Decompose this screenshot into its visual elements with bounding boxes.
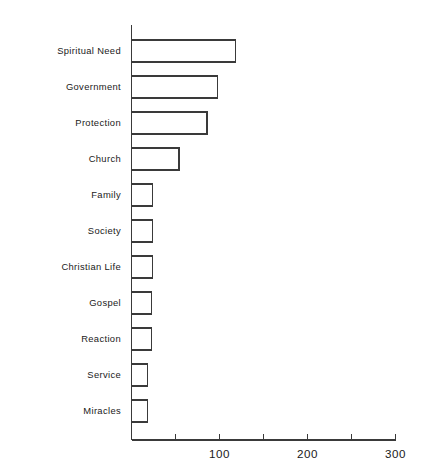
x-axis-tick-label: 200 <box>297 447 318 460</box>
bar <box>132 400 148 422</box>
category-label: Family <box>91 189 121 200</box>
x-axis-tick-label: 300 <box>385 447 406 460</box>
category-label: Society <box>88 225 121 236</box>
category-label: Church <box>89 153 121 164</box>
bar <box>132 184 153 206</box>
x-axis-tick-label: 100 <box>209 447 230 460</box>
category-label: Service <box>87 369 121 380</box>
category-label: Reaction <box>81 333 121 344</box>
bar <box>132 328 152 350</box>
chart-background <box>0 0 433 475</box>
category-label: Gospel <box>89 297 121 308</box>
bar <box>132 76 218 98</box>
category-label: Spiritual Need <box>57 45 121 56</box>
bar <box>132 292 152 314</box>
category-label: Miracles <box>83 405 121 416</box>
bar <box>132 148 180 170</box>
category-label: Protection <box>75 117 121 128</box>
bar <box>132 112 208 134</box>
bar <box>132 364 148 386</box>
chart-canvas: Spiritual NeedGovernmentProtectionChurch… <box>0 0 433 475</box>
bar <box>132 256 153 278</box>
category-label: Christian Life <box>61 261 121 272</box>
bar <box>132 220 153 242</box>
bar <box>132 40 236 62</box>
bar-chart-figure: Spiritual NeedGovernmentProtectionChurch… <box>0 0 433 475</box>
category-label: Government <box>66 81 121 92</box>
